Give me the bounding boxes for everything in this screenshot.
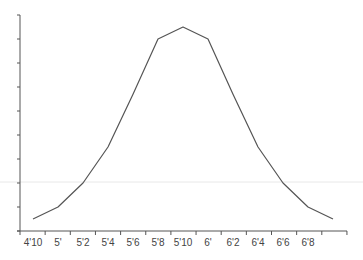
x-tick-label: 6' xyxy=(204,237,212,248)
y-axis xyxy=(17,15,20,231)
x-tick-label: 5'10 xyxy=(174,237,193,248)
x-tick-label: 6'8 xyxy=(301,237,314,248)
x-tick-label: 6'4 xyxy=(251,237,264,248)
x-tick-label: 5'6 xyxy=(126,237,139,248)
x-tick-label: 5' xyxy=(54,237,62,248)
x-tick-label: 6'6 xyxy=(276,237,289,248)
x-tick-label: 4'10 xyxy=(24,237,43,248)
bell-curve-chart: 4'105'5'25'45'65'85'106'6'26'46'66'8 xyxy=(0,0,363,260)
x-tick-label: 5'4 xyxy=(101,237,114,248)
x-axis xyxy=(17,231,347,235)
x-tick-labels: 4'105'5'25'45'65'85'106'6'26'46'66'8 xyxy=(24,237,315,248)
x-tick-label: 5'8 xyxy=(151,237,164,248)
x-tick-label: 5'2 xyxy=(76,237,89,248)
x-tick-label: 6'2 xyxy=(226,237,239,248)
distribution-line xyxy=(33,27,333,219)
